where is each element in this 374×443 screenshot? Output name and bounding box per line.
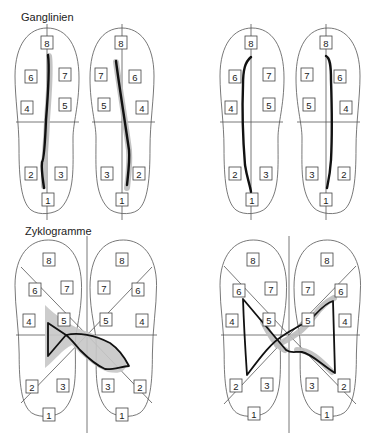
svg-text:6: 6 [132, 72, 137, 83]
svg-text:1: 1 [46, 410, 51, 421]
svg-text:7: 7 [305, 284, 310, 295]
zone-box-3: 3 [306, 167, 318, 180]
zone-box-6: 6 [129, 70, 141, 83]
zone-box-5: 5 [263, 98, 275, 111]
zone-box-7: 7 [263, 68, 275, 81]
zone-box-2: 2 [25, 167, 37, 180]
zone-box-8: 8 [321, 253, 333, 266]
zone-box-2: 2 [26, 380, 38, 393]
zone-box-5: 5 [100, 313, 112, 326]
svg-text:1: 1 [251, 409, 256, 420]
zone-box-5: 5 [98, 98, 110, 111]
svg-text:1: 1 [249, 195, 254, 206]
svg-text:2: 2 [29, 382, 34, 393]
zyklogramme-panel-right: 8 6 7 4 5 2 3 1 8 7 6 5 4 3 2 1 [220, 236, 361, 433]
svg-text:3: 3 [105, 381, 110, 392]
zone-box-4: 4 [136, 314, 148, 327]
zone-box-8: 8 [41, 36, 53, 49]
zone-box-1: 1 [246, 193, 258, 206]
zone-box-8: 8 [320, 36, 332, 49]
zone-box-8: 8 [116, 253, 128, 266]
zone-box-2: 2 [229, 167, 241, 180]
svg-text:7: 7 [266, 70, 271, 81]
svg-text:6: 6 [232, 72, 237, 83]
zone-box-8: 8 [43, 253, 55, 266]
insole-diagram: 8 6 7 4 5 2 3 1 8 7 6 5 4 3 2 1 [0, 0, 374, 443]
zone-box-1: 1 [248, 407, 260, 420]
svg-text:4: 4 [228, 103, 233, 114]
sole-left-foot: 8 6 7 4 5 2 3 1 [15, 24, 79, 220]
svg-text:4: 4 [342, 316, 347, 327]
svg-text:3: 3 [60, 381, 65, 392]
zone-box-1: 1 [43, 408, 55, 421]
svg-text:1: 1 [119, 195, 124, 206]
zone-box-5: 5 [59, 98, 71, 111]
zone-box-8: 8 [245, 36, 257, 49]
svg-text:1: 1 [324, 409, 329, 420]
zone-boxes-right-foot: 8 7 6 5 4 3 2 1 [98, 253, 148, 421]
svg-text:5: 5 [305, 315, 310, 326]
zone-box-4: 4 [23, 314, 35, 327]
zone-box-4: 4 [225, 101, 237, 114]
zone-box-3: 3 [57, 379, 69, 392]
svg-text:5: 5 [62, 100, 67, 111]
svg-text:5: 5 [101, 100, 106, 111]
svg-text:3: 3 [309, 380, 314, 391]
svg-text:7: 7 [101, 283, 106, 294]
svg-text:2: 2 [137, 382, 142, 393]
zone-box-7: 7 [301, 68, 313, 81]
zone-box-7: 7 [95, 68, 107, 81]
zone-box-4: 4 [136, 101, 148, 114]
zone-box-7: 7 [59, 68, 71, 81]
svg-text:4: 4 [343, 103, 348, 114]
svg-text:5: 5 [61, 315, 66, 326]
zone-box-6: 6 [233, 284, 245, 297]
zone-boxes-right-foot: 8 7 6 5 4 3 2 1 [302, 253, 351, 420]
zone-box-5: 5 [302, 313, 314, 326]
svg-text:7: 7 [62, 70, 67, 81]
svg-text:3: 3 [309, 169, 314, 180]
sole-right-foot: 8 7 6 5 4 3 2 1 [296, 24, 360, 220]
zone-box-1: 1 [116, 193, 128, 206]
zone-box-5: 5 [263, 313, 275, 326]
svg-text:8: 8 [118, 38, 123, 49]
svg-text:2: 2 [233, 381, 238, 392]
zone-box-2: 2 [338, 379, 350, 392]
svg-text:8: 8 [324, 255, 329, 266]
svg-text:2: 2 [341, 169, 346, 180]
svg-text:2: 2 [136, 169, 141, 180]
svg-text:2: 2 [341, 381, 346, 392]
zone-box-2: 2 [338, 167, 350, 180]
svg-text:2: 2 [28, 169, 33, 180]
zone-box-6: 6 [335, 284, 347, 297]
svg-text:7: 7 [304, 70, 309, 81]
zone-box-5: 5 [58, 313, 70, 326]
sole-left-foot: 8 6 7 4 5 2 3 1 [220, 24, 284, 220]
zone-box-6: 6 [29, 283, 41, 296]
zone-box-4: 4 [340, 101, 352, 114]
zone-box-7: 7 [302, 282, 314, 295]
svg-text:1: 1 [45, 195, 50, 206]
zone-box-2: 2 [133, 167, 145, 180]
svg-text:7: 7 [98, 70, 103, 81]
ganglinien-panel-right: 8 6 7 4 5 2 3 1 8 7 6 5 4 3 2 1 [220, 24, 360, 220]
zone-box-7: 7 [98, 281, 110, 294]
zone-box-7: 7 [61, 281, 73, 294]
svg-text:2: 2 [232, 169, 237, 180]
svg-text:6: 6 [337, 72, 342, 83]
svg-text:6: 6 [32, 285, 37, 296]
zone-box-8: 8 [247, 253, 259, 266]
svg-text:8: 8 [323, 38, 328, 49]
zone-box-6: 6 [334, 70, 346, 83]
zone-box-6: 6 [229, 70, 241, 83]
zone-box-2: 2 [134, 380, 146, 393]
svg-text:8: 8 [46, 255, 51, 266]
svg-text:8: 8 [248, 38, 253, 49]
zone-box-2: 2 [230, 379, 242, 392]
zone-box-6: 6 [25, 70, 37, 83]
sole-right-foot: 8 7 6 5 4 3 2 1 [90, 24, 155, 220]
svg-text:4: 4 [139, 316, 144, 327]
svg-text:6: 6 [236, 286, 241, 297]
zone-box-3: 3 [102, 379, 114, 392]
svg-text:3: 3 [58, 169, 63, 180]
